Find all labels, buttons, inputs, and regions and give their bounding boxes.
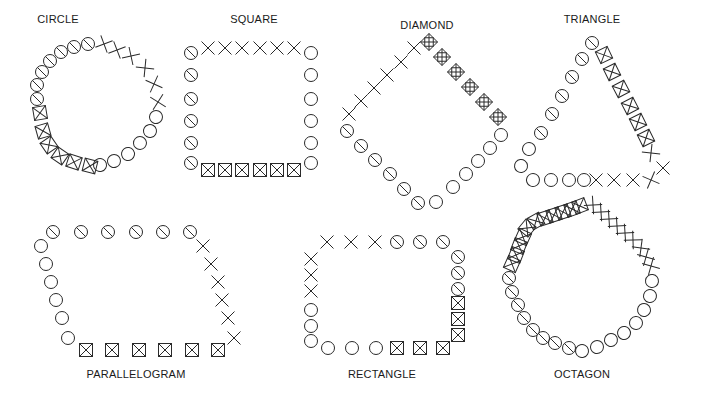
open-circle-icon	[119, 145, 137, 163]
shape-triangle	[514, 37, 670, 189]
x-cross-icon	[222, 312, 235, 325]
slashed-circle-icon	[518, 312, 531, 325]
slashed-circle-icon	[185, 47, 198, 60]
x-cross-icon	[355, 95, 368, 108]
slashed-circle-icon	[452, 283, 465, 296]
slashed-circle-icon	[537, 332, 550, 345]
slashed-circle-icon	[549, 337, 562, 350]
x-cross-icon	[321, 236, 334, 249]
x-cross-icon	[122, 47, 140, 65]
slashed-circle-icon	[184, 226, 197, 239]
slashed-circle-icon	[55, 46, 68, 59]
x-cross-icon	[600, 210, 618, 228]
boxed-x-icon	[80, 344, 93, 357]
x-cross-icon	[305, 253, 318, 266]
slashed-circle-icon	[512, 299, 525, 312]
boxed-x-icon	[595, 46, 612, 63]
x-cross-icon	[657, 162, 670, 175]
boxed-x-icon	[452, 297, 465, 310]
x-cross-icon	[632, 239, 650, 257]
open-circle-icon	[305, 115, 318, 128]
boxed-x-icon	[236, 164, 249, 177]
slashed-circle-icon	[414, 236, 427, 249]
slashed-circle-icon	[68, 41, 81, 54]
open-circle-icon	[305, 320, 318, 333]
open-circle-icon	[45, 276, 58, 289]
x-cross-icon	[305, 269, 318, 282]
x-cross-icon	[146, 76, 163, 93]
slashed-circle-icon	[452, 251, 465, 264]
x-cross-icon	[369, 236, 382, 249]
shape-label-square: SQUARE	[230, 13, 278, 25]
open-circle-icon	[645, 274, 660, 289]
open-circle-icon	[305, 304, 318, 317]
x-cross-icon	[408, 42, 421, 55]
x-cross-icon	[288, 42, 301, 55]
boxed-x-icon	[186, 344, 199, 357]
x-cross-icon	[95, 35, 112, 52]
boxed-x-icon	[508, 247, 525, 264]
x-cross-icon	[584, 196, 602, 214]
slashed-circle-icon	[576, 53, 589, 66]
slashed-circle-icon	[369, 154, 382, 167]
shape-square	[185, 42, 318, 177]
shape-label-octagon: OCTAGON	[554, 368, 610, 380]
open-circle-icon	[92, 157, 108, 173]
open-circle-icon	[484, 142, 497, 155]
open-circle-icon	[635, 301, 653, 319]
boxed-x-icon	[612, 80, 630, 98]
x-cross-icon	[608, 174, 621, 187]
x-cross-icon	[395, 56, 408, 69]
slashed-circle-icon	[566, 71, 579, 84]
x-cross-icon	[216, 294, 229, 307]
open-circle-icon	[62, 332, 75, 345]
slashed-circle-icon	[452, 267, 465, 280]
x-cross-icon	[343, 108, 356, 121]
open-circle-icon	[35, 240, 48, 253]
open-circle-icon	[56, 312, 69, 325]
boxed-x-icon	[391, 342, 404, 355]
shape-circle	[31, 35, 166, 174]
x-cross-icon	[627, 174, 640, 187]
open-circle-icon	[495, 129, 508, 142]
slashed-circle-icon	[506, 286, 519, 299]
shape-label-circle: CIRCLE	[37, 13, 79, 25]
x-cross-icon	[150, 94, 166, 110]
boxed-x-icon	[621, 97, 639, 115]
boxed-x-icon	[254, 164, 267, 177]
shapes-diagram	[0, 0, 701, 394]
slashed-circle-icon	[185, 93, 198, 106]
boxed-x-icon	[106, 344, 119, 357]
shape-diamond	[341, 34, 508, 210]
slashed-circle-icon	[185, 137, 198, 150]
shape-label-parallelogram: PARALLELOGRAM	[87, 368, 186, 380]
slashed-circle-icon	[556, 90, 569, 103]
x-cross-icon	[197, 240, 210, 253]
open-circle-icon	[370, 342, 383, 355]
boxed-x-icon	[511, 238, 528, 255]
boxed-x-icon	[452, 313, 465, 326]
open-circle-icon	[514, 159, 529, 174]
slashed-circle-icon	[130, 226, 143, 239]
open-circle-icon	[574, 343, 590, 359]
slashed-circle-icon	[412, 197, 425, 210]
x-cross-icon	[616, 224, 634, 242]
diamond-boxed-plus-icon	[448, 64, 465, 81]
x-cross-icon	[271, 42, 284, 55]
x-cross-icon	[205, 258, 218, 271]
slashed-circle-icon	[398, 183, 411, 196]
slashed-circle-icon	[44, 55, 57, 68]
open-circle-icon	[305, 137, 318, 150]
x-cross-icon	[642, 144, 660, 162]
x-cross-icon	[254, 42, 267, 55]
slashed-circle-icon	[341, 125, 354, 138]
open-circle-icon	[520, 140, 537, 157]
boxed-x-icon	[219, 164, 232, 177]
boxed-x-icon	[159, 344, 172, 357]
open-circle-icon	[563, 174, 576, 187]
slashed-circle-icon	[185, 69, 198, 82]
slashed-circle-icon	[36, 66, 49, 79]
open-circle-icon	[642, 288, 658, 304]
x-cross-icon	[236, 42, 249, 55]
x-cross-icon	[212, 276, 225, 289]
